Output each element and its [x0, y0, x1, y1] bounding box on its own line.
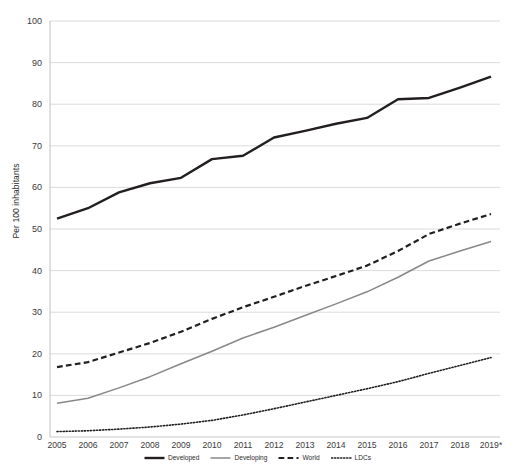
chart-legend: DevelopedDevelopingWorldLDCs: [0, 454, 515, 462]
series-line-ldcs: [57, 358, 491, 432]
series-line-developing: [57, 241, 491, 403]
legend-item-world[interactable]: World: [278, 454, 319, 462]
legend-item-label: LDCs: [355, 454, 372, 462]
series-line-developed: [57, 77, 491, 219]
dashed-line-swatch: [278, 455, 299, 461]
line-chart: Per 100 inhabitants 01020304050607080901…: [0, 0, 515, 476]
legend-item-label: Developing: [234, 454, 267, 462]
solid-gray-line-swatch: [210, 455, 231, 461]
legend-item-label: World: [302, 454, 319, 462]
dotted-line-swatch: [331, 455, 352, 461]
solid-line-swatch: [144, 455, 165, 461]
legend-item-developing[interactable]: Developing: [210, 454, 267, 462]
legend-item-label: Developed: [168, 454, 200, 462]
plot-area: [0, 0, 515, 476]
legend-item-developed[interactable]: Developed: [144, 454, 200, 462]
series-line-world: [57, 214, 491, 367]
legend-item-ldcs[interactable]: LDCs: [331, 454, 372, 462]
